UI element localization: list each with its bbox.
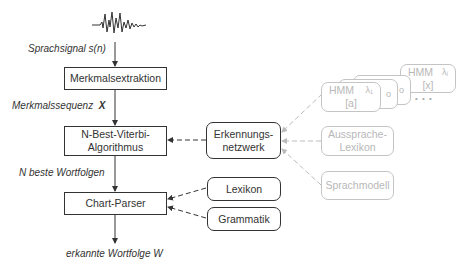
- nbest-viterbi-line2: Algorithmus: [88, 141, 143, 154]
- pronunciation-lexicon-line1: Aussprache-: [328, 128, 387, 141]
- lexicon-label: Lexikon: [226, 183, 262, 196]
- waveform-icon: [92, 12, 146, 33]
- hmm-ellipsis: • • •: [415, 94, 433, 103]
- hmm-3-glyph: o: [399, 84, 404, 97]
- grammar-label: Grammatik: [218, 213, 269, 226]
- arrow-hmm-to-network: [282, 94, 322, 132]
- language-model-box: Sprachmodell: [321, 171, 394, 200]
- recognition-network-box: Erkennungs- netzwerk: [206, 122, 281, 159]
- nbest-viterbi-box: N-Best-Viterbi- Algorithmus: [64, 126, 167, 156]
- grammar-box: Grammatik: [207, 207, 281, 231]
- feature-extraction-box: Merkmalsextraktion: [64, 67, 167, 90]
- chart-parser-label: Chart-Parser: [85, 197, 145, 210]
- recognition-network-line2: netzwerk: [222, 141, 264, 154]
- hmm-j-phone: [x]: [422, 79, 433, 92]
- hmm-1-title: HMM: [329, 84, 354, 97]
- arrow-grammar-to-parser: [168, 207, 206, 218]
- hmm-box-1: HMM λ₁ [a]: [321, 82, 381, 112]
- nbest-label: N beste Wortfolgen: [19, 167, 105, 178]
- hmm-j-lambda: λⱼ: [442, 66, 448, 79]
- arrow-lexicon-to-parser: [168, 188, 206, 199]
- chart-parser-box: Chart-Parser: [64, 192, 167, 215]
- signal-label: Sprachsignal s(n): [28, 43, 106, 54]
- arrow-langmodel-to-network: [282, 149, 321, 185]
- hmm-2-glyph: o: [386, 88, 391, 101]
- pronunciation-lexicon-line2: Lexikon: [339, 141, 375, 154]
- language-model-label: Sprachmodell: [325, 179, 389, 192]
- lexicon-box: Lexikon: [207, 177, 281, 201]
- pronunciation-lexicon-box: Aussprache- Lexikon: [321, 126, 394, 156]
- feature-sequence-text: Merkmalssequenz: [12, 100, 93, 111]
- hmm-1-phone: [a]: [345, 97, 357, 110]
- nbest-viterbi-line1: N-Best-Viterbi-: [81, 128, 150, 141]
- feature-sequence-symbol: X: [99, 100, 106, 111]
- output-label: erkannte Wortfolge W: [66, 248, 163, 259]
- hmm-j-title: HMM: [408, 66, 433, 79]
- feature-sequence-label: Merkmalssequenz X: [12, 100, 105, 111]
- recognition-network-line1: Erkennungs-: [214, 128, 274, 141]
- feature-extraction-label: Merkmalsextraktion: [70, 72, 161, 85]
- hmm-1-lambda: λ₁: [365, 84, 373, 97]
